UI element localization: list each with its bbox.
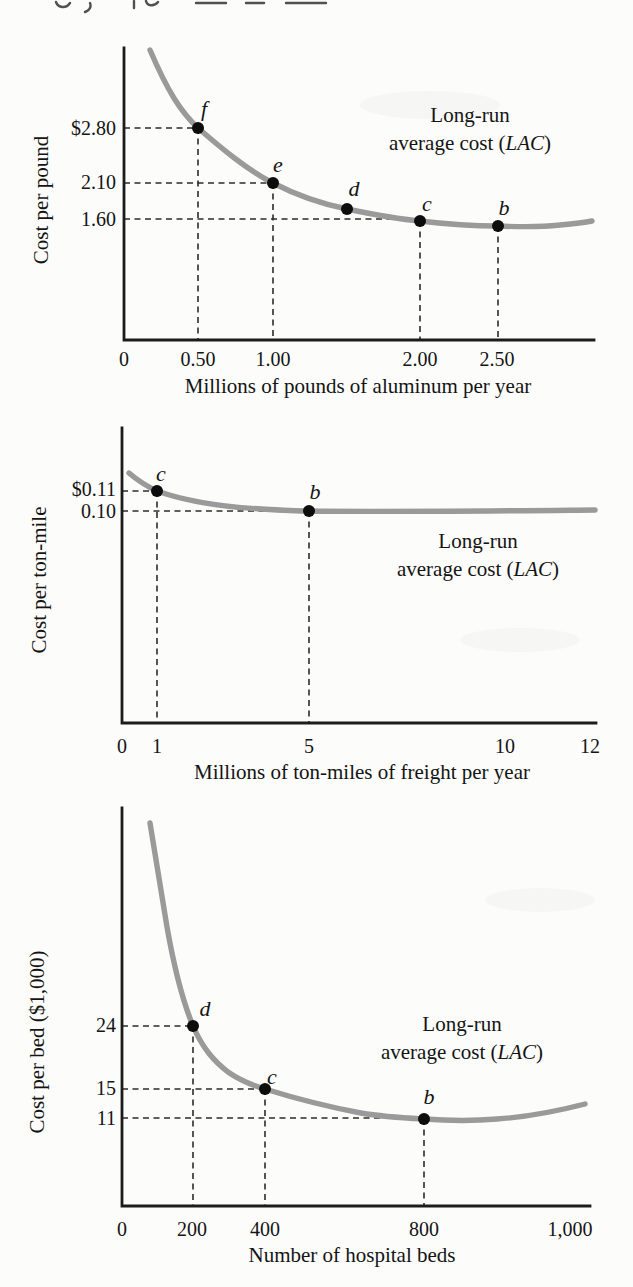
y-tick-label: 11 (97, 1107, 116, 1129)
chart-aluminum: fedcb$2.802.101.6000.501.002.002.50Milli… (29, 48, 594, 398)
y-axis-title: Cost per pound (29, 135, 53, 264)
x-axis-title: Millions of pounds of aluminum per year (185, 374, 531, 398)
point-label-d: d (349, 176, 361, 201)
x-axis-title: Number of hospital beds (248, 1243, 455, 1267)
x-tick-label: 200 (177, 1218, 207, 1240)
lac-curves-figure: fedcb$2.802.101.6000.501.002.002.50Milli… (0, 0, 633, 1287)
scan-smudge (460, 628, 580, 652)
y-tick-label: 24 (96, 1014, 116, 1036)
y-tick-label: 15 (96, 1077, 116, 1099)
cropped-text-remnant (56, 1, 326, 12)
y-tick-label: 1.60 (81, 208, 116, 230)
chart-hospital: dcb24151102004008001,000Number of hospit… (25, 808, 593, 1267)
data-point-d (187, 1020, 199, 1032)
point-label-c: c (267, 1064, 277, 1089)
x-tick-label: 1,000 (548, 1218, 593, 1240)
x-tick-label: 10 (495, 735, 515, 757)
data-point-b (418, 1113, 430, 1125)
point-label-b: b (499, 195, 510, 220)
x-tick-label: 0.50 (181, 348, 216, 370)
y-axis-title: Cost per bed ($1,000) (25, 950, 49, 1133)
curve-annotation-line1: Long-run (422, 1012, 502, 1036)
point-label-d: d (200, 996, 212, 1021)
point-label-b: b (424, 1084, 435, 1109)
x-tick-label: 2.50 (480, 348, 515, 370)
data-point-d (341, 203, 353, 215)
lac-curve (150, 823, 585, 1121)
point-label-e: e (273, 152, 283, 177)
curve-annotation-line2: average cost (LAC) (389, 131, 551, 155)
x-tick-label: 0 (119, 348, 129, 370)
data-point-b (492, 220, 504, 232)
point-label-b: b (310, 479, 321, 504)
point-label-c: c (156, 461, 166, 486)
x-tick-label: 400 (250, 1218, 280, 1240)
y-axis-title: Cost per ton-mile (27, 507, 51, 654)
y-tick-label: 0.10 (81, 500, 116, 522)
scan-smudge (485, 888, 595, 912)
x-tick-label: 800 (409, 1218, 439, 1240)
data-point-f (192, 122, 204, 134)
x-axis-title: Millions of ton-miles of freight per yea… (194, 760, 530, 784)
curve-annotation-line2: average cost (LAC) (381, 1040, 543, 1064)
point-label-c: c (422, 191, 432, 216)
x-tick-label: 5 (304, 735, 314, 757)
data-point-e (267, 177, 279, 189)
data-point-b (303, 505, 315, 517)
y-tick-label: $2.80 (71, 117, 116, 139)
x-tick-label: 1 (152, 735, 162, 757)
curve-annotation-line2: average cost (LAC) (397, 557, 559, 581)
point-label-f: f (201, 96, 210, 121)
data-point-c (414, 215, 426, 227)
chart-freight: cb$0.110.100151012Millions of ton-miles … (27, 428, 600, 784)
x-tick-label: 2.00 (403, 348, 438, 370)
y-tick-label: 2.10 (81, 171, 116, 193)
x-tick-label: 12 (580, 735, 600, 757)
curve-annotation-line1: Long-run (438, 529, 518, 553)
x-tick-label: 1.00 (256, 348, 291, 370)
data-point-c (151, 485, 163, 497)
x-tick-label: 0 (117, 1218, 127, 1240)
curve-annotation-line1: Long-run (430, 103, 510, 127)
y-tick-label: $0.11 (72, 478, 116, 500)
lac-curve (129, 473, 595, 511)
x-tick-label: 0 (117, 735, 127, 757)
textbook-figure-page: fedcb$2.802.101.6000.501.002.002.50Milli… (0, 0, 633, 1287)
